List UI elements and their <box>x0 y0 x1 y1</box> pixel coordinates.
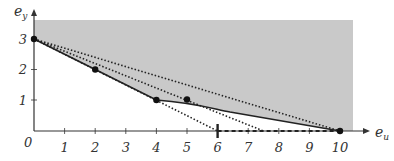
y-tick-label-1: 1 <box>19 93 27 108</box>
y-axis-arrow-icon <box>31 9 37 16</box>
point-4-1 <box>153 97 159 103</box>
x-tick-label-10: 10 <box>332 140 349 155</box>
x-axis-arrow-icon <box>363 128 370 134</box>
x-tick-label-6: 6 <box>213 140 221 155</box>
point-5-1 <box>184 96 190 102</box>
point-0-3 <box>31 36 37 42</box>
x-tick-label-5: 5 <box>183 140 191 155</box>
point-10-0 <box>337 128 343 134</box>
x-tick-label-7: 7 <box>244 140 253 155</box>
x-tick-label-4: 4 <box>151 140 160 155</box>
x-tick-label-2: 2 <box>90 140 99 155</box>
y-tick-label-2: 2 <box>18 62 27 77</box>
point-2-2 <box>92 66 98 72</box>
origin-label: 0 <box>24 135 32 150</box>
pareto-diagram: ey eu 0 1 2 3 4 5 6 7 8 9 10 1 2 3 <box>0 0 394 161</box>
shaded-region <box>34 20 353 131</box>
x-tick-label-1: 1 <box>60 140 68 155</box>
x-tick-label-9: 9 <box>305 140 313 155</box>
x-tick-label-8: 8 <box>275 140 283 155</box>
x-axis-label: eu <box>375 124 389 142</box>
y-axis-label: ey <box>14 3 28 21</box>
x-tick-label-3: 3 <box>122 140 130 155</box>
y-tick-label-3: 3 <box>19 32 27 47</box>
